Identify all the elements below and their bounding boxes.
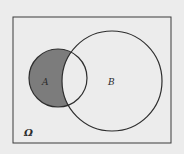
universe-label: Ω bbox=[23, 127, 33, 138]
venn-diagram: A B Ω bbox=[0, 0, 184, 154]
set-a-label: A bbox=[41, 77, 49, 87]
set-b-label: B bbox=[107, 77, 115, 87]
